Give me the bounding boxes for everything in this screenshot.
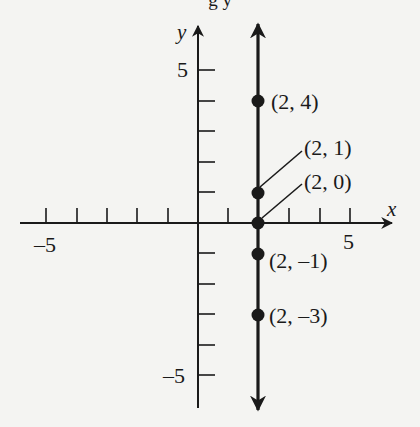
point-2-neg3 [252, 309, 265, 322]
label-2-4: (2, 4) [271, 89, 319, 114]
y-tick-label-5: 5 [177, 57, 188, 82]
label-2-0: (2, 0) [304, 169, 352, 194]
point-2-1 [252, 187, 265, 200]
coordinate-plane: –5 5 x 5 –5 y [0, 0, 420, 427]
label-2-neg1: (2, –1) [269, 248, 328, 273]
point-2-4 [252, 95, 265, 108]
x-axis: –5 5 x [20, 197, 397, 257]
x-axis-label: x [386, 197, 397, 221]
point-labels: (2, 4) (2, 1) (2, 0) (2, –1) (2, –3) [269, 89, 352, 328]
x-tick-label-neg5: –5 [33, 232, 56, 257]
label-2-1: (2, 1) [304, 135, 352, 160]
point-2-neg1 [252, 248, 265, 261]
y-tick-label-neg5: –5 [162, 363, 185, 388]
leader-line-2-0 [262, 184, 302, 218]
y-axis: 5 –5 y [162, 20, 215, 408]
leader-line-2-1 [260, 151, 302, 187]
y-axis-label: y [175, 20, 187, 44]
x-tick-label-5: 5 [343, 229, 354, 254]
leader-lines [260, 151, 302, 218]
label-2-neg3: (2, –3) [269, 303, 328, 328]
